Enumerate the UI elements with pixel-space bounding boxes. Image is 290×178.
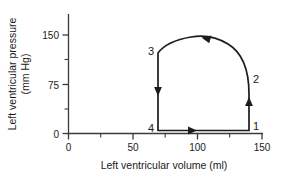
x-tick-label-0: 0 bbox=[66, 142, 72, 153]
y-axis-title-line2: (mm Hg) bbox=[19, 54, 31, 95]
x-tick-label-50: 50 bbox=[127, 142, 139, 153]
point-label-2: 2 bbox=[253, 73, 259, 85]
isovolumic-contraction-arrow-icon bbox=[245, 97, 253, 106]
point-label-1: 1 bbox=[253, 120, 259, 132]
y-tick-label-0: 0 bbox=[53, 129, 59, 140]
x-axis-title: Left ventricular volume (ml) bbox=[101, 159, 228, 171]
y-tick-label-150: 150 bbox=[42, 30, 59, 41]
pv-loop-curve bbox=[158, 36, 249, 130]
chart-canvas: 150 75 0 0 50 100 150 Left ventricular v… bbox=[0, 0, 290, 178]
point-label-3: 3 bbox=[148, 45, 154, 57]
point-label-4: 4 bbox=[148, 122, 154, 134]
y-axis-title-line1: Left ventricular pressure bbox=[6, 18, 18, 131]
y-tick-label-75: 75 bbox=[48, 80, 60, 91]
x-tick-label-150: 150 bbox=[254, 142, 271, 153]
x-tick-label-100: 100 bbox=[189, 142, 206, 153]
isovolumic-relaxation-arrow-icon bbox=[154, 87, 162, 96]
pressure-volume-loop-figure: 150 75 0 0 50 100 150 Left ventricular v… bbox=[0, 0, 290, 178]
